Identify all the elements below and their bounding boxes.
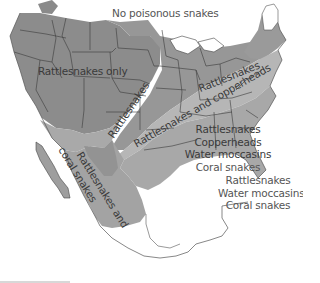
label-southeast: Rattlesnakes Copperheads Water moccasins… bbox=[182, 124, 274, 172]
label-rattlesnakes-only: Rattlesnakes only bbox=[38, 66, 127, 77]
label-se-line-1: Rattlesnakes bbox=[182, 124, 274, 135]
gulf-coast-outline bbox=[146, 214, 180, 248]
label-no-poisonous-snakes: No poisonous snakes bbox=[112, 8, 218, 19]
label-mexico-east: Rattlesnakes Water moccasins Coral snake… bbox=[218, 175, 298, 211]
label-se-line-3: Water moccasins bbox=[182, 149, 274, 160]
label-se-line-4: Coral snakes bbox=[182, 162, 274, 173]
label-mx-e-line-1: Rattlesnakes bbox=[218, 175, 298, 186]
label-mx-e-line-2: Water moccasins bbox=[218, 188, 298, 199]
region-bc bbox=[38, 0, 58, 14]
label-mx-e-line-3: Coral snakes bbox=[218, 200, 298, 211]
label-se-line-2: Copperheads bbox=[182, 137, 274, 148]
